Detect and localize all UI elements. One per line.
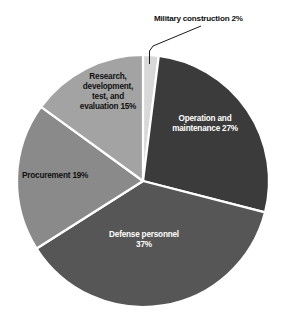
pie-chart: Military construction 2% Operation and m… xyxy=(0,0,282,324)
slice-label-defense-personnel: Defense personnel 37% xyxy=(85,230,203,250)
pie-chart-canvas xyxy=(0,0,282,324)
slice-label-operation-and-maintenance: Operation and maintenance 27% xyxy=(153,114,257,134)
slice-label-military-construction: Military construction 2% xyxy=(154,14,278,24)
slice-label-research-development-test-evaluation: Research, development, test, and evaluat… xyxy=(64,72,152,112)
slice-label-procurement: Procurement 19% xyxy=(22,171,126,181)
